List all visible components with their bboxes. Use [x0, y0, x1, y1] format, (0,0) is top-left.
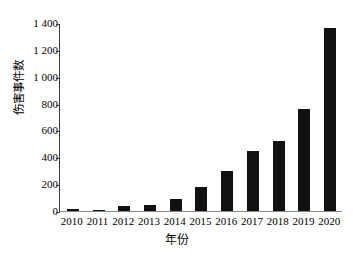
bar[interactable]	[324, 28, 336, 211]
x-axis-tick-label: 2020	[309, 215, 349, 227]
bar-slot	[240, 24, 266, 211]
bar-slot	[86, 24, 112, 211]
bar[interactable]	[195, 187, 207, 211]
bar[interactable]	[93, 210, 105, 211]
bar-slot	[60, 24, 86, 211]
y-axis-tick-label: 1 200	[6, 45, 58, 56]
bar-slot	[292, 24, 318, 211]
bar[interactable]	[144, 205, 156, 211]
bar-slot	[317, 24, 343, 211]
bars-layer	[60, 24, 342, 211]
bar-slot	[214, 24, 240, 211]
bar[interactable]	[170, 199, 182, 211]
y-axis-tick-label: 1 400	[6, 18, 58, 29]
bar-slot	[163, 24, 189, 211]
bar[interactable]	[247, 151, 259, 211]
y-axis-tick-label: 600	[6, 125, 58, 136]
y-axis-tick-label: 0	[6, 206, 58, 217]
y-axis-tick-label: 200	[6, 179, 58, 190]
bar[interactable]	[118, 206, 130, 211]
bar[interactable]	[273, 141, 285, 212]
bar[interactable]	[298, 109, 310, 211]
bar-chart: 伤害事件数 02004006008001 0001 2001 400 20102…	[0, 0, 353, 259]
bar-slot	[266, 24, 292, 211]
plot-area	[59, 24, 342, 212]
y-axis-tick-label: 400	[6, 152, 58, 163]
bar[interactable]	[221, 171, 233, 211]
x-axis-title: 年份	[0, 233, 353, 247]
bar-slot	[137, 24, 163, 211]
bar-slot	[111, 24, 137, 211]
bar[interactable]	[67, 209, 79, 211]
y-axis-tick-mark	[56, 212, 60, 213]
y-axis-tick-label: 800	[6, 99, 58, 110]
bar-slot	[189, 24, 215, 211]
y-axis-tick-label: 1 000	[6, 72, 58, 83]
